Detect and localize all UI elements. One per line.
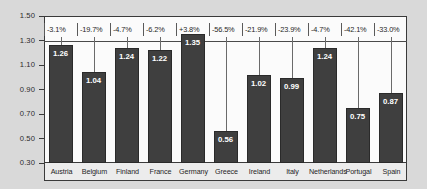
- bar[interactable]: 0.56: [214, 131, 238, 163]
- annotation-leader-line: [61, 37, 62, 45]
- annotation-leader-line: [127, 37, 128, 48]
- bar-value-label: 1.22: [149, 54, 171, 63]
- bar[interactable]: 0.99: [280, 78, 304, 163]
- x-axis-category-label: Germany: [177, 163, 210, 180]
- bar[interactable]: 1.04: [82, 72, 106, 163]
- bar[interactable]: 0.75: [346, 108, 370, 163]
- y-axis-tick-label: 0.90: [20, 84, 35, 96]
- bar-value-label: 1.35: [182, 38, 204, 47]
- x-axis-category-band: AustriaBelgiumFinlandFranceGermanyGreece…: [44, 163, 407, 181]
- bar-value-label: 1.26: [50, 49, 72, 58]
- bar[interactable]: 0.87: [379, 93, 403, 163]
- bar-series: 1.261.041.241.221.350.561.020.991.240.75…: [44, 16, 407, 163]
- annotation-leader-line: [226, 37, 227, 131]
- bar-value-label: 1.24: [314, 52, 336, 61]
- bar-slot: 1.02: [242, 16, 275, 163]
- x-axis-category-label: Finland: [111, 163, 144, 180]
- annotation-leader-line: [358, 37, 359, 108]
- y-axis-tick: 0.50: [0, 133, 44, 145]
- bar-value-label: 1.04: [83, 76, 105, 85]
- bar[interactable]: 1.26: [49, 45, 73, 163]
- y-axis: 1.501.301.100.900.700.500.30: [0, 0, 44, 189]
- bar-value-label: 1.02: [248, 79, 270, 88]
- bar[interactable]: 1.22: [148, 50, 172, 163]
- y-axis-tick: 0.90: [0, 84, 44, 96]
- bar-slot: 0.75: [341, 16, 374, 163]
- x-axis-category-label: Belgium: [78, 163, 111, 180]
- y-axis-tick: 0.70: [0, 108, 44, 120]
- bar[interactable]: 1.24: [115, 48, 139, 163]
- y-axis-tick-label: 0.70: [20, 108, 35, 120]
- bar-value-label: 0.99: [281, 82, 303, 91]
- annotation-leader-line: [292, 37, 293, 78]
- x-axis-category-label: Italy: [276, 163, 309, 180]
- bar-slot: 1.26: [44, 16, 77, 163]
- annotation-leader-line: [325, 37, 326, 48]
- y-axis-tick-label: 1.10: [20, 59, 35, 71]
- bar-value-label: 0.87: [380, 97, 402, 106]
- bar-slot: 1.22: [143, 16, 176, 163]
- y-axis-tick-label: 1.30: [20, 35, 35, 47]
- y-axis-tick-label: 0.30: [20, 157, 35, 169]
- bar[interactable]: 1.24: [313, 48, 337, 163]
- bar-slot: 0.56: [209, 16, 242, 163]
- y-axis-tick-label: 1.50: [20, 10, 35, 22]
- annotation-leader-line: [94, 37, 95, 72]
- x-axis-category-label: Greece: [210, 163, 243, 180]
- bar-slot: 1.24: [308, 16, 341, 163]
- x-axis-category-label: Austria: [45, 163, 78, 180]
- bar-slot: 1.35: [176, 16, 209, 163]
- annotation-leader-line: [259, 37, 260, 75]
- annotation-leader-line: [391, 37, 392, 93]
- bar-value-label: 0.75: [347, 112, 369, 121]
- bar-slot: 0.87: [374, 16, 407, 163]
- y-axis-tick-label: 0.50: [20, 133, 35, 145]
- bar[interactable]: 1.02: [247, 75, 271, 163]
- y-axis-tick: 0.30: [0, 157, 44, 169]
- annotation-leader-line: [160, 37, 161, 50]
- bar-value-label: 1.24: [116, 52, 138, 61]
- x-axis-category-label: Portugal: [342, 163, 375, 180]
- bar-slot: 1.04: [77, 16, 110, 163]
- x-axis-category-label: France: [144, 163, 177, 180]
- bar-value-label: 0.56: [215, 135, 237, 144]
- x-axis-category-label: Netherlands: [309, 163, 342, 180]
- x-axis-category-label: Ireland: [243, 163, 276, 180]
- bar[interactable]: 1.35: [181, 34, 205, 163]
- bar-slot: 1.24: [110, 16, 143, 163]
- y-axis-tick: 1.10: [0, 59, 44, 71]
- bar-chart: 1.501.301.100.900.700.500.30 -3.1%-19.7%…: [0, 0, 427, 189]
- bar-slot: 0.99: [275, 16, 308, 163]
- y-axis-tick: 1.30: [0, 35, 44, 47]
- x-axis-category-label: Spain: [375, 163, 408, 180]
- y-axis-tick: 1.50: [0, 10, 44, 22]
